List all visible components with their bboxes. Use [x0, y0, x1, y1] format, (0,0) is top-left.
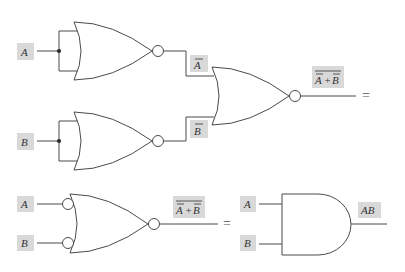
nor-bubble-bottom: [149, 219, 160, 230]
label-out-b-top: B: [332, 74, 339, 86]
equals-bottom: =: [223, 216, 231, 231]
label-b1: B: [21, 136, 28, 148]
label-out-b-bottom: B: [193, 204, 200, 216]
gate2-group: B B: [17, 112, 214, 170]
nor-bubble-3: [290, 91, 301, 102]
label-ab: AB: [360, 204, 375, 216]
equals-top: =: [362, 88, 370, 103]
nor-bubble-1: [153, 46, 164, 57]
label-out-a-bottom: A: [175, 204, 183, 216]
label-a3: A: [243, 198, 251, 210]
nor-gate-3: [212, 67, 289, 125]
and-gate: [282, 194, 351, 255]
label-bbar: B: [194, 125, 201, 137]
input-bubble-b: [63, 238, 74, 249]
nor-gate-1: [74, 22, 152, 80]
wire-a1-branch: [59, 31, 80, 71]
label-out-a-top: A: [314, 74, 322, 86]
wire-b1-branch: [59, 121, 80, 161]
nor-bubble-2: [153, 136, 164, 147]
label-out-plus-top: +: [325, 74, 331, 86]
nor-gate-2: [74, 112, 152, 170]
input-bubble-a: [63, 199, 74, 210]
gate3-group: A + B =: [212, 66, 370, 125]
and-gate-group: A B AB: [240, 194, 387, 255]
label-b3: B: [244, 237, 251, 249]
nor-gate-bottom: [70, 194, 148, 253]
label-a2: A: [20, 198, 28, 210]
label-a1: A: [20, 46, 28, 58]
gate1-group: A A: [17, 22, 214, 80]
label-out-plus-bottom: +: [186, 204, 192, 216]
label-b2: B: [21, 237, 28, 249]
logic-diagram: A A B B A + B =: [0, 0, 405, 272]
bottom-nor-group: A B A + B =: [17, 194, 231, 253]
label-abar: A: [193, 59, 201, 71]
